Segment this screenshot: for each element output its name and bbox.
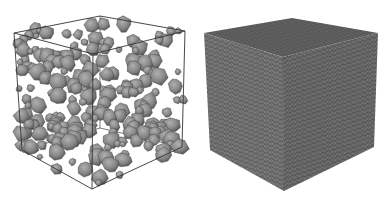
aggregate-particle — [168, 79, 182, 94]
aggregate-particle — [117, 16, 131, 33]
aggregate-particle — [79, 98, 87, 105]
aggregate-particle — [96, 55, 110, 68]
meshed-cube-figure — [195, 0, 391, 206]
aggregate-particle — [16, 85, 22, 91]
aggregate-particles — [13, 16, 189, 186]
aggregate-particle — [128, 87, 139, 97]
aggregate-particle — [81, 39, 88, 46]
meshed-cube-panel — [195, 0, 391, 206]
aggregate-particle — [33, 33, 39, 38]
aggregate-particle — [84, 18, 99, 32]
cube-right-face — [283, 33, 378, 191]
aggregate-particle — [61, 68, 68, 75]
aggregate-particle — [78, 162, 93, 177]
aggregate-particle — [100, 44, 111, 55]
aggregate-cube-figure — [0, 0, 195, 206]
aggregate-particle — [69, 158, 76, 165]
cube-left-face — [204, 33, 284, 191]
aggregate-particle — [175, 69, 181, 75]
aggregate-particle — [150, 67, 168, 85]
aggregate-particle — [62, 29, 72, 38]
aggregate-packing-panel — [0, 0, 195, 206]
aggregate-particle — [73, 29, 83, 40]
aggregate-particle — [22, 94, 31, 104]
aggregate-particle — [162, 108, 172, 118]
aggregate-particle — [67, 101, 81, 116]
aggregate-particle — [37, 141, 46, 150]
aggregate-particle — [27, 85, 35, 92]
aggregate-particle — [28, 49, 33, 55]
